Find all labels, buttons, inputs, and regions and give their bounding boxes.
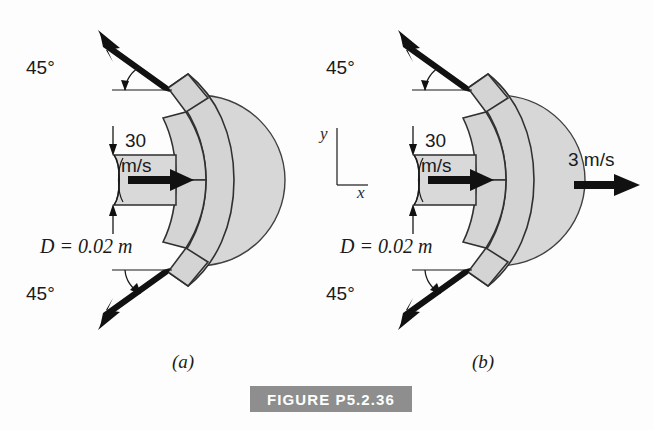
jet-speed-value-b: 30 xyxy=(425,130,446,151)
diameter-dimension-b xyxy=(409,126,417,234)
figure-caption-text: FIGURE P5.2.36 xyxy=(267,391,395,408)
panel-label-b: (b) xyxy=(472,351,494,373)
diameter-label-a: D = 0.02 m xyxy=(39,235,132,257)
figure-svg: 30 m/s D = 0.02 m 45° xyxy=(0,0,654,430)
deflected-jet-lower-b xyxy=(398,268,470,330)
figure-caption-banner: FIGURE P5.2.36 xyxy=(250,386,412,412)
deflected-jet-upper-b xyxy=(398,30,470,92)
coordinate-axes: y x xyxy=(318,124,368,202)
angle-arrow-upper-b xyxy=(421,80,429,91)
angle-arrow-upper-a xyxy=(121,80,129,91)
vane-speed-label: 3 m/s xyxy=(568,149,614,170)
axis-y-label: y xyxy=(318,124,328,143)
panel-b: 30 m/s D = 0.02 m 45° xyxy=(326,30,585,373)
jet-speed-unit-b: m/s xyxy=(421,155,452,176)
panel-label-a: (a) xyxy=(172,351,194,373)
angle-label-lower-a: 45° xyxy=(26,283,55,304)
jet-speed-unit-a: m/s xyxy=(121,155,152,176)
diameter-dimension-a xyxy=(109,126,117,234)
angle-label-upper-a: 45° xyxy=(26,57,55,78)
angle-label-upper-b: 45° xyxy=(326,57,355,78)
diameter-label-b: D = 0.02 m xyxy=(339,235,432,257)
jet-speed-value-a: 30 xyxy=(125,130,146,151)
panel-a: 30 m/s D = 0.02 m 45° xyxy=(26,30,285,373)
angle-label-lower-b: 45° xyxy=(326,283,355,304)
deflected-jet-lower-a xyxy=(98,268,170,330)
deflected-jet-upper-a xyxy=(98,30,170,92)
figure-canvas: 30 m/s D = 0.02 m 45° xyxy=(0,0,654,430)
axis-x-label: x xyxy=(356,183,365,202)
